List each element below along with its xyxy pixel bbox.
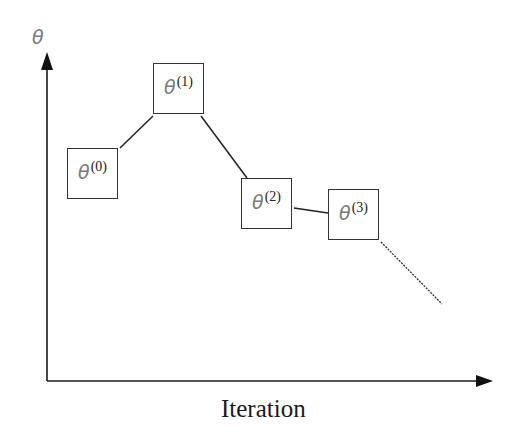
edge-theta0-theta1 [120, 116, 153, 148]
theta-symbol: θ [252, 191, 264, 213]
node-theta-1: θ(1) [153, 63, 204, 114]
node-label: θ(1) [164, 78, 193, 97]
x-axis-label: Iteration [221, 396, 306, 421]
node-theta-2: θ(2) [241, 178, 292, 229]
iteration-superscript: (3) [352, 200, 368, 215]
edge-theta2-theta3 [294, 208, 328, 213]
node-theta-3: θ(3) [328, 189, 379, 240]
iteration-superscript: (1) [177, 74, 193, 89]
y-axis-arrowhead-icon [41, 52, 53, 70]
iteration-superscript: (0) [91, 159, 107, 174]
theta-symbol: θ [164, 76, 176, 98]
node-label: θ(2) [252, 193, 281, 212]
edge-theta1-theta2 [201, 116, 247, 178]
x-axis-arrowhead-icon [476, 375, 493, 387]
node-theta-0: θ(0) [67, 148, 118, 199]
theta-symbol: θ [339, 202, 351, 224]
edge-theta3-continuation [381, 242, 442, 304]
node-label: θ(3) [339, 204, 368, 223]
y-axis [41, 52, 53, 381]
y-axis-label: θ [32, 28, 44, 47]
iteration-superscript: (2) [265, 189, 281, 204]
x-axis [47, 375, 493, 387]
theta-symbol: θ [78, 161, 90, 183]
node-label: θ(0) [78, 163, 107, 182]
